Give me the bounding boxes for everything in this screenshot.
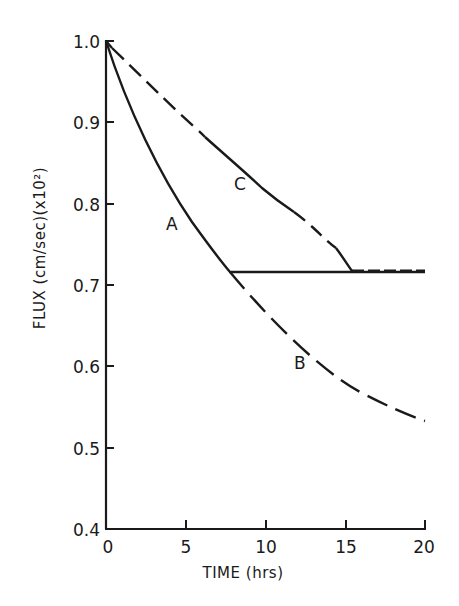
curve-c-dashed [112, 48, 205, 137]
flux-chart: 1.0 0.9 0.8 0.7 0.6 0.5 0.4 0 5 10 15 20… [0, 0, 459, 606]
y-tick-label: 1.0 [73, 32, 100, 52]
y-tick-label: 0.9 [73, 113, 100, 133]
y-tick-label: 0.7 [73, 276, 100, 296]
x-tick-label: 5 [181, 537, 192, 557]
y-tick-label: 0.5 [73, 439, 100, 459]
y-axis-title: FLUX (cm/sec)(x10²) [31, 167, 49, 329]
x-axis-title: TIME (hrs) [202, 564, 284, 582]
curve-c-solid-3 [336, 248, 352, 271]
y-tick-labels: 1.0 0.9 0.8 0.7 0.6 0.5 0.4 [73, 32, 100, 540]
curve-c-dashed-2 [294, 212, 336, 248]
x-ticks [186, 520, 425, 529]
curve-c-solid-2 [205, 137, 294, 212]
y-tick-label: 0.6 [73, 357, 100, 377]
x-tick-label: 0 [103, 537, 114, 557]
curve-b-label: B [294, 353, 306, 373]
curve-b [230, 272, 425, 421]
x-tick-label: 15 [335, 537, 357, 557]
curve-a-label: A [166, 214, 178, 234]
curve-a [106, 41, 425, 272]
y-tick-label: 0.4 [73, 520, 100, 540]
y-ticks [106, 41, 114, 448]
x-tick-labels: 0 5 10 15 20 [103, 537, 435, 557]
y-tick-label: 0.8 [73, 195, 100, 215]
curve-c-label: C [234, 174, 246, 194]
x-tick-label: 20 [413, 537, 435, 557]
x-tick-label: 10 [255, 537, 277, 557]
